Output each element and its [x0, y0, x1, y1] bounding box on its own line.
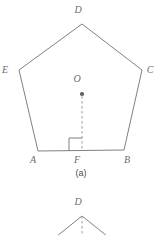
right-angle-marker — [69, 138, 82, 151]
center-point-dot — [80, 92, 84, 96]
geometry-figure-container: A B C D E O F (a) D — [0, 0, 160, 235]
vertex-label-D: D — [73, 4, 82, 15]
figure-canvas: A B C D E O F (a) D — [0, 0, 160, 235]
vertex-label-E: E — [1, 64, 8, 75]
pentagon-outline — [19, 24, 142, 151]
lower-figure-group: D — [52, 196, 112, 235]
center-label-O: O — [73, 73, 80, 84]
foot-label-F: F — [73, 154, 81, 165]
figure-caption-a: (a) — [76, 168, 87, 178]
vertex-label-C: C — [147, 64, 154, 75]
vertex-label-B: B — [124, 154, 130, 165]
lower-figure-apex-label-D: D — [73, 196, 82, 207]
pentagon-group: A B C D E O F — [1, 4, 154, 165]
vertex-label-A: A — [29, 154, 37, 165]
